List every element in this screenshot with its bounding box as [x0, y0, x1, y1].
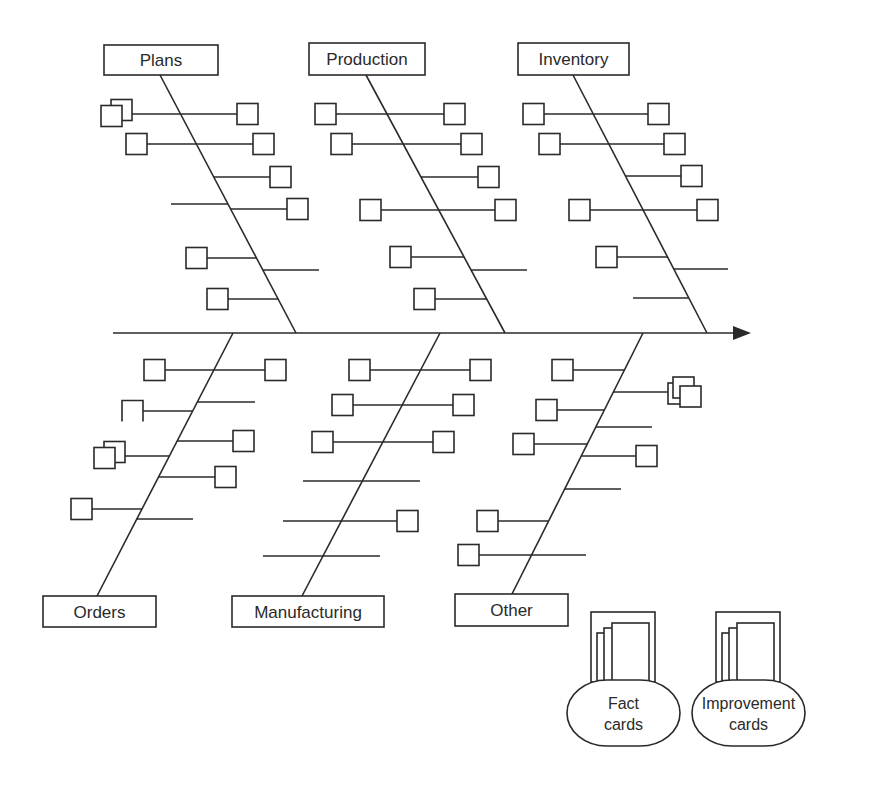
rib [581, 446, 657, 467]
fact-card-slot[interactable] [552, 360, 573, 381]
rib [569, 200, 718, 221]
rib [390, 247, 464, 268]
category-orders [71, 333, 286, 596]
fact-card-slot[interactable] [315, 104, 336, 125]
fact-card-slot[interactable] [122, 401, 143, 422]
fact-card-slot[interactable] [360, 200, 381, 221]
fact-card-slot[interactable] [433, 432, 454, 453]
svg-text:Improvement: Improvement [702, 695, 796, 712]
fact-card-slot[interactable] [478, 167, 499, 188]
rib [144, 360, 286, 381]
fact-card-slot[interactable] [332, 395, 353, 416]
label-orders: Orders [43, 596, 156, 627]
rib [552, 360, 624, 381]
label-inventory: Inventory [518, 43, 629, 75]
rib [231, 199, 308, 220]
rib [513, 434, 587, 455]
rib [458, 545, 586, 566]
fact-card-slot[interactable] [681, 166, 702, 187]
fact-card-slot[interactable] [536, 400, 557, 421]
card-pocket [692, 680, 805, 746]
rib [71, 499, 142, 520]
category-bones [71, 75, 728, 596]
fact-card-slot[interactable] [207, 289, 228, 310]
fact-card-slot[interactable] [215, 467, 236, 488]
category-labels: PlansProductionInventoryOrdersManufactur… [43, 43, 629, 627]
label-production: Production [309, 43, 425, 75]
fact-card-slot[interactable] [697, 200, 718, 221]
fact-card-slot[interactable] [237, 104, 258, 125]
rib [177, 431, 254, 452]
fact-card-slot[interactable] [144, 360, 165, 381]
fact-card-slot[interactable] [523, 104, 544, 125]
label-manufacturing: Manufacturing [232, 596, 384, 627]
fact-card-slot[interactable] [331, 134, 352, 155]
fact-card-slot[interactable] [186, 248, 207, 269]
fact-card-slot[interactable] [126, 134, 147, 155]
rib [625, 166, 702, 187]
fact-card-slot[interactable] [470, 360, 491, 381]
card-icon [612, 623, 649, 683]
fact-card-slot[interactable] [349, 360, 370, 381]
fact-card-slot[interactable] [397, 511, 418, 532]
rib [283, 511, 418, 532]
rib [536, 400, 604, 421]
rib [207, 289, 278, 310]
fact-card-slot[interactable] [596, 247, 617, 268]
card-icon [737, 623, 774, 683]
fact-card-slot[interactable] [94, 448, 115, 469]
arrowhead-icon [733, 326, 751, 340]
rib [214, 167, 291, 188]
rib [477, 511, 549, 532]
improvement-cards-holder[interactable]: Improvementcards [692, 612, 805, 746]
fact-card-slot[interactable] [539, 134, 560, 155]
fact-card-slot[interactable] [390, 247, 411, 268]
svg-text:Orders: Orders [74, 603, 126, 622]
fact-card-slot[interactable] [453, 395, 474, 416]
fact-card-slot[interactable] [495, 200, 516, 221]
fact-card-slot[interactable] [444, 104, 465, 125]
card-pocket [567, 680, 680, 746]
fact-card-slot[interactable] [287, 199, 308, 220]
rib [312, 432, 454, 453]
svg-text:Plans: Plans [140, 51, 183, 70]
fact-card-slot[interactable] [312, 432, 333, 453]
fact-card-slot[interactable] [414, 289, 435, 310]
fact-card-slot[interactable] [664, 134, 685, 155]
fact-card-slot[interactable] [636, 446, 657, 467]
fact-card-slot[interactable] [265, 360, 286, 381]
rib [613, 377, 701, 407]
rib [159, 467, 236, 488]
fact-card-slot[interactable] [270, 167, 291, 188]
label-other: Other [455, 594, 568, 626]
rib [315, 104, 465, 125]
svg-text:cards: cards [729, 716, 768, 733]
spine [113, 326, 751, 340]
rib [332, 395, 474, 416]
fact-card-slot[interactable] [458, 545, 479, 566]
fact-card-slot[interactable] [680, 386, 701, 407]
fact-cards-holder[interactable]: Factcards [567, 612, 680, 746]
svg-text:Production: Production [326, 50, 407, 69]
fishbone-diagram: PlansProductionInventoryOrdersManufactur… [0, 0, 871, 786]
fact-card-slot[interactable] [513, 434, 534, 455]
category-manufacturing [263, 333, 491, 596]
rib [349, 360, 491, 381]
svg-text:Inventory: Inventory [539, 50, 609, 69]
rib [186, 248, 256, 269]
fact-card-slot[interactable] [477, 511, 498, 532]
rib [414, 289, 487, 310]
svg-text:Fact: Fact [608, 695, 640, 712]
category-plans [101, 75, 319, 333]
svg-text:Manufacturing: Manufacturing [254, 603, 362, 622]
fact-card-slot[interactable] [461, 134, 482, 155]
fact-card-slot[interactable] [569, 200, 590, 221]
fact-card-slot[interactable] [71, 499, 92, 520]
fact-card-slot[interactable] [101, 106, 122, 127]
fact-card-slot[interactable] [233, 431, 254, 452]
fact-card-slot[interactable] [648, 104, 669, 125]
bone-line [511, 333, 643, 596]
fact-card-slot[interactable] [253, 134, 274, 155]
svg-text:Other: Other [490, 601, 533, 620]
category-production [315, 75, 527, 333]
